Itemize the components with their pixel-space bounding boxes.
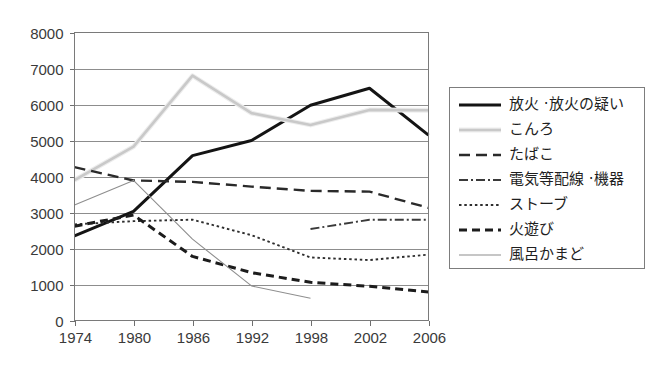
legend-item-5[interactable]: ストーブ: [450, 192, 644, 217]
series-line-6: [75, 215, 429, 292]
legend-item-label: 放火 ·放火の疑い: [509, 97, 624, 112]
series-line-7: [75, 180, 311, 298]
legend-swatch-icon: [458, 98, 502, 112]
chart-legend: 放火 ·放火の疑いこんろたばこ電気等配線 ·機器ストーブ火遊び風呂かまど: [449, 87, 645, 269]
legend-swatch-icon: [458, 223, 502, 237]
legend-item-label: たばこ: [509, 147, 554, 162]
legend-item-2[interactable]: こんろ: [450, 117, 644, 142]
series-line-3: [75, 167, 429, 208]
series-line-5: [75, 220, 429, 260]
legend-item-label: こんろ: [509, 122, 554, 137]
x-tick-label: 1992: [236, 329, 269, 346]
legend-item-label: ストーブ: [509, 197, 568, 212]
y-tick-label: 6000: [30, 97, 63, 114]
y-tick-label: 2000: [30, 241, 63, 258]
legend-swatch-icon: [458, 148, 502, 162]
legend-item-label: 電気等配線 ·機器: [509, 172, 624, 187]
series-line-4: [311, 220, 429, 229]
y-tick-label: 5000: [30, 133, 63, 150]
x-tick-label: 1974: [59, 329, 92, 346]
y-tick-label: 7000: [30, 61, 63, 78]
x-axis-tickmarks: [76, 321, 430, 326]
legend-item-7[interactable]: 風呂かまど: [450, 242, 644, 267]
y-tick-label: 3000: [30, 205, 63, 222]
gridlines: [75, 70, 429, 286]
legend-item-label: 風呂かまど: [509, 247, 584, 262]
chart-figure: 010002000300040005000600070008000 197419…: [0, 0, 657, 374]
y-tick-label: 4000: [30, 169, 63, 186]
legend-item-6[interactable]: 火遊び: [450, 217, 644, 242]
y-axis-tick-labels: 010002000300040005000600070008000: [30, 25, 63, 330]
legend-item-4[interactable]: 電気等配線 ·機器: [450, 167, 644, 192]
y-axis-tickmarks: [70, 34, 75, 322]
x-tick-label: 1986: [177, 329, 210, 346]
y-tick-label: 1000: [30, 277, 63, 294]
plot-area-border: [75, 33, 429, 321]
legend-swatch-icon: [458, 198, 502, 212]
legend-item-3[interactable]: たばこ: [450, 142, 644, 167]
legend-swatch-icon: [458, 173, 502, 187]
y-tick-label: 0: [55, 313, 63, 330]
x-tick-label: 1980: [118, 329, 151, 346]
legend-swatch-icon: [458, 123, 502, 137]
x-tick-label: 2006: [413, 329, 446, 346]
legend-item-label: 火遊び: [509, 222, 554, 237]
legend-swatch-icon: [458, 248, 502, 262]
x-tick-label: 1998: [295, 329, 328, 346]
legend-item-1[interactable]: 放火 ·放火の疑い: [450, 92, 644, 117]
y-tick-label: 8000: [30, 25, 63, 42]
x-tick-label: 2002: [354, 329, 387, 346]
x-axis-tick-labels: 1974198019861992199820022006: [59, 329, 446, 346]
data-series-group: [75, 76, 429, 298]
